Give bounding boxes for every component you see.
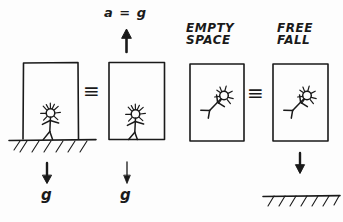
arrow-up-acceleration: [122, 29, 131, 52]
label-empty-space-line2: SPACE: [186, 33, 231, 47]
panel-empty-space-box: [190, 64, 244, 141]
label-gravity-left: g: [41, 188, 52, 203]
label-free-fall-line2: FALL: [277, 33, 310, 47]
equivalence-principle-diagram: a = g EMPTYSPACE FREEFALL g g ≡ ≡: [0, 0, 343, 222]
ground-hatching-1: [14, 141, 87, 152]
equivalence-sign-2: ≡: [247, 81, 264, 105]
label-empty-space: EMPTYSPACE: [186, 22, 234, 46]
label-free-fall: FREEFALL: [277, 22, 313, 46]
arrow-down-gravity-1: [43, 163, 52, 184]
box-outline-1: [23, 63, 79, 140]
label-gravity-middle: g: [120, 188, 131, 203]
arrow-down-gravity-2: [124, 162, 130, 184]
panel-accelerating-box: [109, 29, 165, 184]
ground-hatching-2: [268, 196, 339, 206]
panel-free-fall-box: [263, 64, 340, 206]
stick-figure-floating-2: [284, 86, 316, 118]
stick-figure-floating-1: [201, 86, 233, 118]
stick-figure-standing-2: [126, 104, 146, 139]
label-acceleration: a = g: [104, 6, 147, 19]
box-outline-2: [109, 63, 165, 140]
equivalence-sign-1: ≡: [83, 79, 100, 103]
stick-figure-standing-1: [41, 103, 61, 139]
arrow-down-free-fall: [296, 153, 305, 174]
